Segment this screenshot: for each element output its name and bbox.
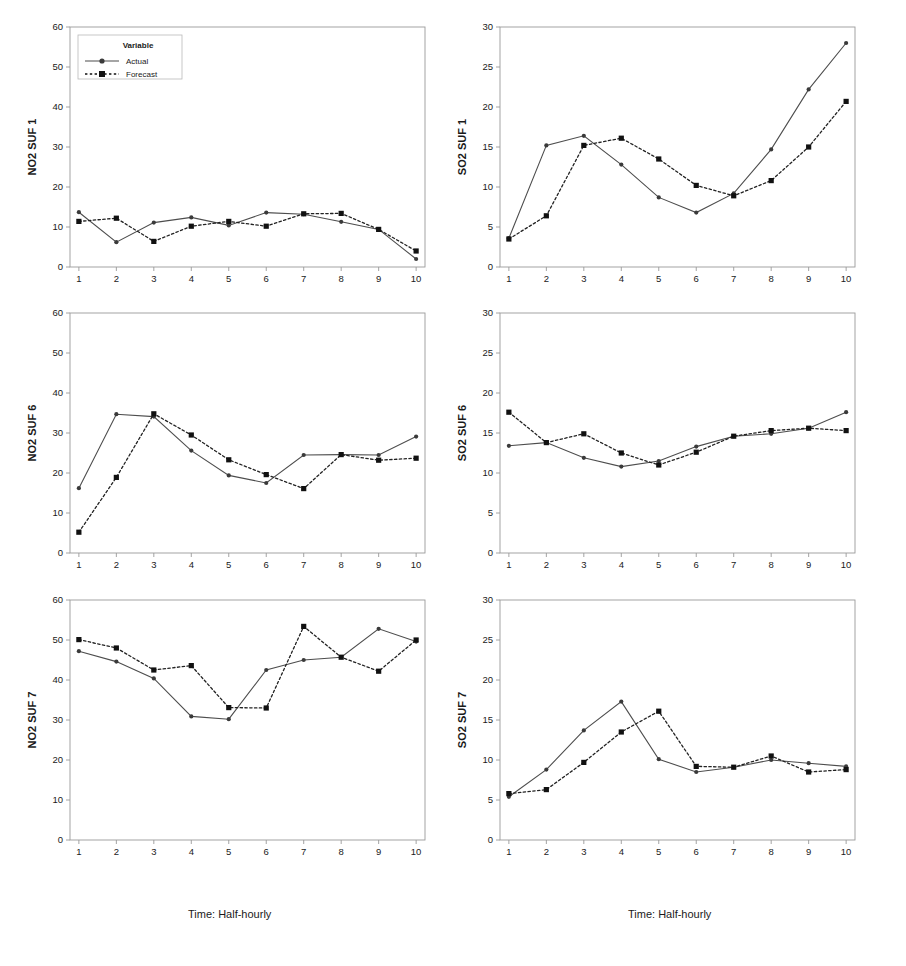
series-line-forecast (509, 412, 846, 465)
data-point-forecast (769, 178, 774, 183)
data-point-forecast (114, 216, 119, 221)
x-tick-label: 4 (619, 559, 624, 570)
data-point-forecast (656, 709, 661, 714)
data-point-forecast (189, 224, 194, 229)
y-tick-label: 30 (52, 427, 63, 438)
data-point-forecast (151, 239, 156, 244)
legend-marker-forecast (99, 71, 105, 77)
data-point-forecast (694, 450, 699, 455)
data-point-forecast (414, 248, 419, 253)
y-tick-label: 40 (52, 674, 63, 685)
data-point-forecast (151, 411, 156, 416)
y-axis-title: SO2 SUF 6 (456, 405, 468, 461)
y-tick-label: 5 (488, 221, 493, 232)
x-tick-label: 8 (769, 559, 774, 570)
x-tick-label: 6 (264, 846, 269, 857)
y-tick-label: 15 (482, 714, 493, 725)
x-tick-label: 2 (114, 559, 119, 570)
data-point-actual (264, 481, 268, 485)
chart-panel-no2-suf-6: 010203040506012345678910NO2 SUF 6 (26, 307, 425, 570)
x-tick-label: 10 (411, 273, 422, 284)
data-point-forecast (581, 143, 586, 148)
x-tick-label: 7 (731, 559, 736, 570)
data-point-actual (694, 445, 698, 449)
data-point-actual (844, 410, 848, 414)
x-tick-label: 7 (731, 846, 736, 857)
data-point-forecast (544, 787, 549, 792)
x-tick-label: 2 (544, 559, 549, 570)
chart-panel-so2-suf-1: 05101520253012345678910SO2 SUF 1 (456, 21, 855, 284)
legend-label-actual: Actual (126, 57, 148, 66)
x-tick-label: 8 (339, 273, 344, 284)
data-point-actual (414, 435, 418, 439)
data-point-forecast (806, 769, 811, 774)
series-line-actual (79, 629, 416, 719)
data-point-forecast (301, 486, 306, 491)
x-tick-label: 1 (506, 846, 511, 857)
chart-panel-no2-suf-1: 010203040506012345678910NO2 SUF 1Variabl… (26, 21, 425, 284)
data-point-forecast (376, 227, 381, 232)
x-tick-label: 10 (841, 559, 852, 570)
y-tick-label: 0 (58, 261, 63, 272)
x-tick-label: 7 (301, 846, 306, 857)
data-point-actual (189, 449, 193, 453)
data-point-forecast (731, 434, 736, 439)
data-point-actual (264, 668, 268, 672)
y-tick-label: 30 (482, 307, 493, 318)
data-point-forecast (76, 637, 81, 642)
figure-panel-grid: 010203040506012345678910NO2 SUF 1Variabl… (0, 0, 906, 966)
x-tick-label: 6 (694, 273, 699, 284)
y-tick-label: 0 (58, 547, 63, 558)
chart-panel-no2-suf-7: 010203040506012345678910NO2 SUF 7 (26, 594, 425, 857)
x-tick-label: 1 (76, 559, 81, 570)
series-line-forecast (79, 414, 416, 532)
x-tick-label: 5 (656, 273, 661, 284)
x-tick-label: 1 (506, 273, 511, 284)
data-point-actual (264, 211, 268, 215)
y-tick-label: 50 (52, 347, 63, 358)
y-tick-label: 30 (482, 21, 493, 32)
x-tick-label: 5 (226, 273, 231, 284)
x-axis-label-row: Time: Half-hourly Time: Half-hourly (0, 906, 906, 936)
x-tick-label: 1 (76, 273, 81, 284)
data-point-actual (582, 456, 586, 460)
data-point-actual (544, 768, 548, 772)
y-tick-label: 30 (482, 594, 493, 605)
data-point-forecast (544, 213, 549, 218)
data-point-actual (114, 240, 118, 244)
data-point-forecast (769, 753, 774, 758)
y-tick-label: 50 (52, 634, 63, 645)
series-line-actual (509, 702, 846, 797)
series-line-forecast (509, 711, 846, 793)
x-tick-label: 10 (411, 559, 422, 570)
y-tick-label: 0 (488, 547, 493, 558)
y-axis-title: SO2 SUF 1 (456, 119, 468, 175)
plot-frame (500, 600, 855, 840)
data-point-actual (619, 465, 623, 469)
y-axis-title: NO2 SUF 7 (26, 692, 38, 749)
x-tick-label: 4 (189, 273, 194, 284)
plot-frame (70, 600, 425, 840)
x-tick-label: 8 (769, 273, 774, 284)
data-point-forecast (581, 760, 586, 765)
data-point-actual (302, 658, 306, 662)
x-tick-label: 8 (769, 846, 774, 857)
y-tick-label: 10 (52, 221, 63, 232)
plot-frame (500, 27, 855, 267)
y-tick-label: 5 (488, 794, 493, 805)
x-tick-label: 3 (151, 846, 156, 857)
data-point-forecast (339, 452, 344, 457)
series-line-actual (509, 43, 846, 238)
data-point-actual (189, 714, 193, 718)
data-point-actual (302, 453, 306, 457)
x-tick-label: 5 (226, 846, 231, 857)
x-tick-label: 10 (411, 846, 422, 857)
data-point-forecast (226, 705, 231, 710)
y-tick-label: 50 (52, 61, 63, 72)
legend-label-forecast: Forecast (126, 70, 158, 79)
y-tick-label: 10 (52, 507, 63, 518)
series-line-actual (79, 212, 416, 259)
x-tick-label: 3 (581, 846, 586, 857)
x-tick-label: 6 (694, 846, 699, 857)
x-tick-label: 2 (114, 846, 119, 857)
